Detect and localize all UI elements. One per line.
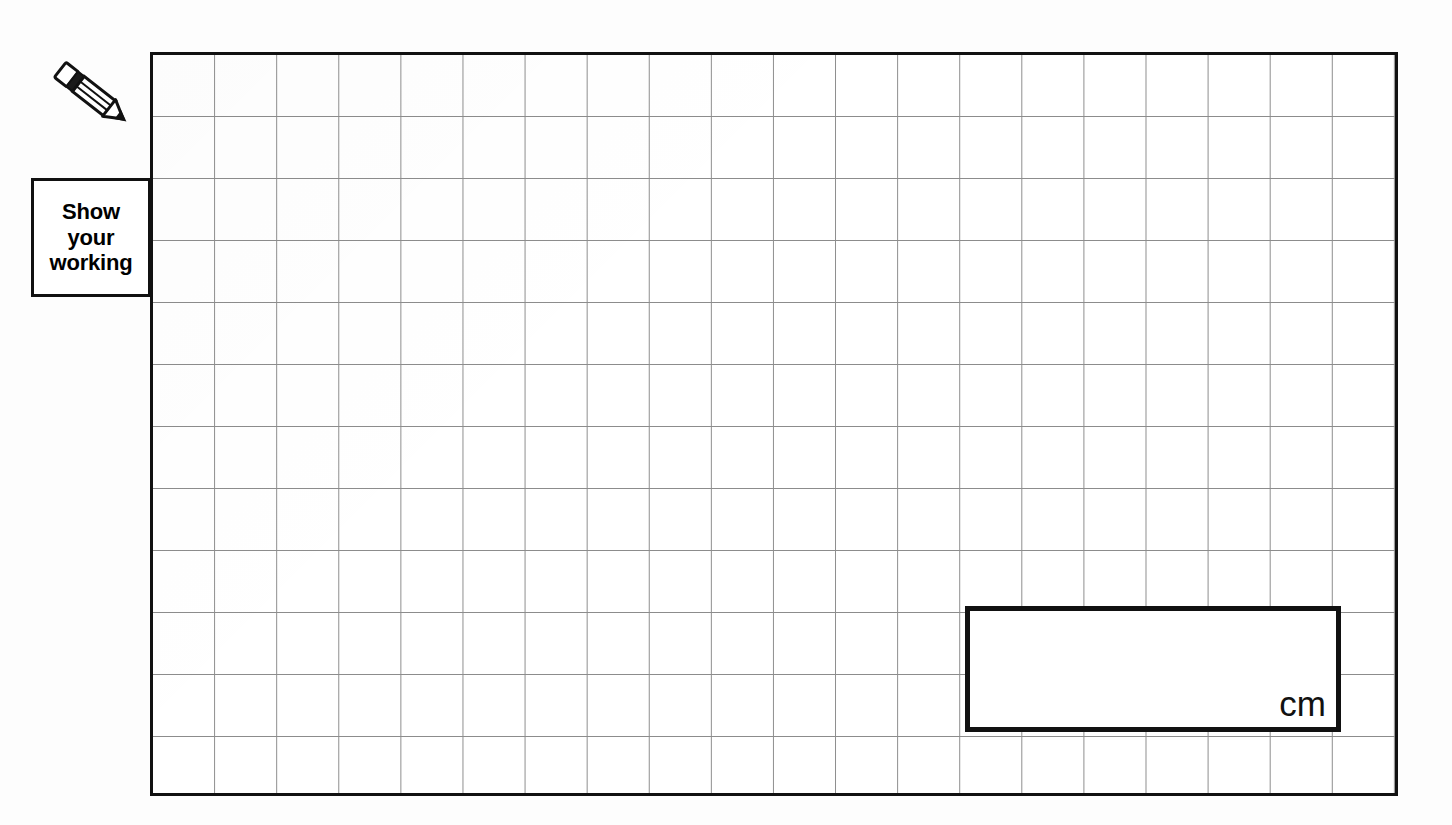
answer-box[interactable]: cm	[965, 606, 1341, 732]
working-label-line-1: Show	[62, 199, 120, 225]
show-your-working-callout: Show your working	[31, 178, 151, 297]
answer-unit-label: cm	[1279, 686, 1336, 727]
worksheet-page: Show your working cm	[0, 0, 1452, 825]
working-label-line-3: working	[50, 250, 133, 276]
pencil-icon	[47, 54, 139, 138]
working-label-line-2: your	[68, 225, 115, 251]
